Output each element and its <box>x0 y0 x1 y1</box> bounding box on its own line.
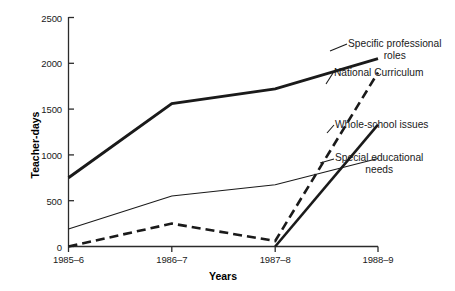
chart-figure: 2500 2000 1500 1000 500 0 1985–6 1986–7 … <box>0 0 455 291</box>
y-tick-label-2000: 2000 <box>30 58 62 69</box>
series-label-specific-professional-roles-line2: roles <box>348 50 441 62</box>
leader-line-specific-professional-roles <box>330 44 347 51</box>
x-tick-label-1986-7: 1986–7 <box>156 254 187 265</box>
y-axis-title: Teacher-days <box>29 112 41 179</box>
series-label-whole-school-issues: Whole-school issues <box>335 119 428 131</box>
leader-line-whole-school-issues <box>327 125 334 133</box>
y-tick-label-0: 0 <box>30 241 62 252</box>
x-tick-label-1988-9: 1988–9 <box>362 254 393 265</box>
y-tick-label-500: 500 <box>30 195 62 206</box>
series-label-specific-professional-roles-line1: Specific professional <box>348 38 441 49</box>
series-line-special-educational-needs <box>69 159 379 230</box>
x-tick-label-1985-6: 1985–6 <box>53 254 84 265</box>
series-label-specific-professional-roles: Specific professional roles <box>348 38 441 61</box>
series-line-whole-school-issues <box>275 125 378 247</box>
series-label-special-educational-needs-line1: Special educational <box>335 152 423 163</box>
leader-line-special-educational-needs <box>320 159 334 163</box>
series-label-national-curriculum: National Curriculum <box>334 67 423 79</box>
series-label-special-educational-needs-line2: needs <box>335 164 423 176</box>
x-tick-label-1987-8: 1987–8 <box>260 254 291 265</box>
series-label-special-educational-needs: Special educational needs <box>335 152 423 175</box>
x-axis-title: Years <box>209 270 237 282</box>
y-tick-label-2500: 2500 <box>30 12 62 23</box>
